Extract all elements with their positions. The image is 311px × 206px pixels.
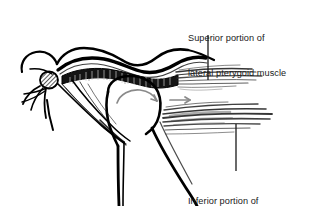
label-superior-portion: Superior portion of lateral pterygoid mu… [188,10,286,102]
label-superior-line1: Superior portion of [188,33,286,45]
label-superior-line2: lateral pterygoid muscle [188,68,286,80]
straight-translation-arrow [170,97,190,103]
label-inferior-portion: Inferior portion of lateral pterygoid mu… [188,173,286,206]
lateral-pterygoid-figure: Superior portion of lateral pterygoid mu… [0,0,311,206]
label-inferior-line1: Inferior portion of [188,196,286,206]
mandibular-ramus [118,122,197,206]
mandibular-condyle [40,72,58,89]
curved-rotation-arrow [117,90,157,103]
coronoid-process [58,80,130,145]
